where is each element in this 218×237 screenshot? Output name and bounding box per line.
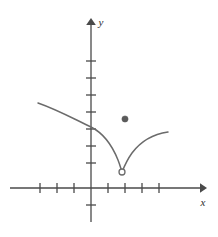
y-axis-arrowhead [86, 18, 96, 25]
y-axis-group [86, 18, 96, 222]
open-circle-point [119, 169, 125, 175]
graph-figure: x y [0, 0, 218, 237]
x-axis-label: x [200, 196, 206, 208]
coordinate-plane: x y [0, 0, 218, 237]
curve-right-branch [122, 132, 168, 172]
x-axis-arrowhead [200, 183, 207, 193]
curve-left-branch [38, 103, 122, 172]
y-axis-label: y [98, 16, 104, 28]
filled-dot-point [122, 116, 128, 122]
plotted-curve [38, 103, 168, 172]
